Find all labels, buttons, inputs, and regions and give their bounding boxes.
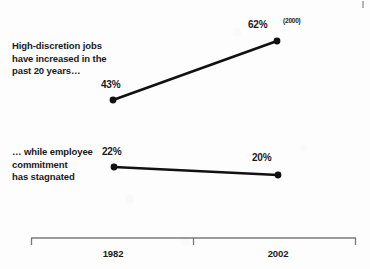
- end-year-note: (2000): [283, 17, 301, 24]
- series-2-point-1982: [111, 164, 118, 171]
- series-high-discretion-jobs: [110, 38, 281, 104]
- series-2-point-2002: [275, 172, 282, 179]
- value-label-series1-1982: 43%: [101, 79, 120, 90]
- callout-high-discretion-jobs: High-discretion jobs have increased in t…: [12, 40, 107, 78]
- series-employee-commitment: [111, 164, 282, 179]
- value-label-series1-2002: 62%: [248, 19, 267, 30]
- slope-chart-figure: High-discretion jobs have increased in t…: [0, 0, 370, 269]
- value-label-series2-2002: 20%: [252, 152, 271, 163]
- x-axis: [31, 238, 356, 245]
- x-axis-label-2002: 2002: [248, 248, 308, 259]
- callout-employee-commitment: … while employee commitment has stagnate…: [12, 146, 93, 184]
- x-axis-label-1982: 1982: [83, 248, 143, 259]
- scan-artifact-speck: [362, 1, 364, 8]
- series-1-point-1982: [110, 97, 117, 104]
- value-label-series2-1982: 22%: [102, 146, 121, 157]
- series-1-point-2002: [274, 38, 281, 45]
- series-2-line: [114, 167, 278, 175]
- series-1-line: [113, 41, 277, 100]
